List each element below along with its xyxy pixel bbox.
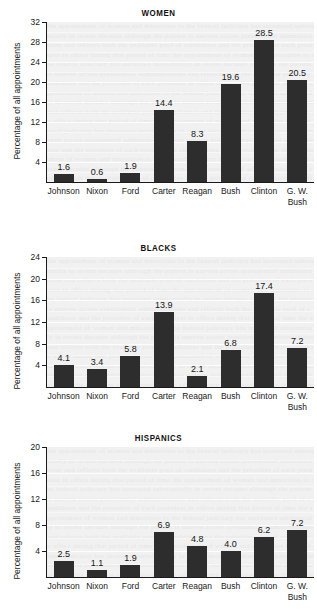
bar [154, 312, 174, 387]
gridline-minor [47, 268, 314, 269]
bar [54, 561, 74, 577]
bar-value-label: 19.6 [222, 72, 240, 82]
x-axis-category-label: G. W.Bush [287, 186, 308, 207]
y-axis-tick-label: 12 [18, 494, 40, 504]
bar [221, 350, 241, 387]
bar [254, 40, 274, 183]
y-axis-tick-label: 16 [18, 295, 40, 305]
chart-title: HISPANICS [19, 433, 298, 443]
y-axis-tick-label: 8 [18, 137, 40, 147]
x-axis-category-label: Nixon [86, 391, 108, 402]
gridline-minor [47, 460, 314, 461]
x-axis-category-label: Carter [152, 186, 176, 197]
x-axis-category-label: Reagan [182, 186, 212, 197]
y-axis-tick [42, 300, 46, 301]
y-axis-tick-label: 8 [18, 520, 40, 530]
y-axis-tick-label: 12 [18, 317, 40, 327]
bar [287, 348, 307, 387]
gridline-minor [47, 486, 314, 487]
y-axis-tick-label: 4 [18, 157, 40, 167]
x-axis-category-label: Reagan [182, 391, 212, 402]
chart-blacks: BLACKS Percentage of all appointments th… [0, 235, 317, 425]
bar-value-label: 0.6 [91, 167, 104, 177]
bar-value-label: 13.9 [155, 300, 173, 310]
y-axis-tick-label: 20 [18, 274, 40, 284]
bar-value-label: 2.5 [57, 549, 70, 559]
y-axis-tick [42, 279, 46, 280]
bar-value-label: 7.2 [291, 518, 304, 528]
y-axis-tick [42, 102, 46, 103]
gridline-minor [47, 512, 314, 513]
x-axis-category-label: Clinton [251, 391, 277, 402]
y-axis-line [46, 447, 47, 578]
bar-value-label: 1.6 [57, 162, 70, 172]
x-axis-category-label: Nixon [86, 581, 108, 592]
plot-area: the appointment of women and minorities … [47, 447, 314, 577]
x-axis-category-label: G. W.Bush [287, 391, 308, 412]
y-axis-line [46, 22, 47, 183]
bar [187, 376, 207, 387]
bar [87, 570, 107, 577]
y-axis-tick [42, 322, 46, 323]
x-axis-category-label: Carter [152, 391, 176, 402]
y-axis-tick [42, 42, 46, 43]
bar-value-label: 28.5 [255, 28, 273, 38]
bar [221, 551, 241, 577]
y-axis-tick-label: 12 [18, 117, 40, 127]
bar [87, 369, 107, 387]
bar-value-label: 4.0 [224, 539, 237, 549]
gridline [47, 525, 314, 526]
chart-title: BLACKS [19, 243, 298, 253]
bar-value-label: 4.1 [57, 353, 70, 363]
bar [254, 537, 274, 577]
x-axis-category-label: Johnson [48, 186, 80, 197]
bar [154, 110, 174, 182]
bar-value-label: 6.9 [158, 520, 171, 530]
bar-value-label: 6.8 [224, 338, 237, 348]
y-axis-tick [42, 142, 46, 143]
y-axis-line [46, 257, 47, 388]
x-axis-category-label: Bush [221, 391, 240, 402]
x-axis-category-label: G. W.Bush [287, 581, 308, 602]
y-axis-tick [42, 525, 46, 526]
y-axis-tick [42, 344, 46, 345]
y-axis-tick [42, 82, 46, 83]
bar-value-label: 5.8 [124, 344, 137, 354]
bar-value-label: 7.2 [291, 336, 304, 346]
bar [154, 532, 174, 577]
bar [287, 80, 307, 183]
x-axis-category-label: Nixon [86, 186, 108, 197]
y-axis-tick [42, 551, 46, 552]
y-axis-tick [42, 447, 46, 448]
bar-value-label: 1.9 [124, 161, 137, 171]
x-axis-category-label: Ford [122, 186, 139, 197]
plot-area: the appointment of women and minorities … [47, 22, 314, 182]
bar [187, 546, 207, 577]
y-axis-tick [42, 257, 46, 258]
y-axis-tick-label: 20 [18, 442, 40, 452]
x-axis-category-label: Reagan [182, 581, 212, 592]
bar-value-label: 20.5 [289, 68, 307, 78]
y-axis-tick [42, 473, 46, 474]
x-axis-line [46, 387, 314, 388]
y-axis-tick-label: 20 [18, 77, 40, 87]
y-axis-tick [42, 365, 46, 366]
bar-value-label: 14.4 [155, 98, 173, 108]
x-axis-category-label: Ford [122, 391, 139, 402]
x-axis-category-label: Johnson [48, 391, 80, 402]
bar-value-label: 2.1 [191, 364, 204, 374]
bar [54, 365, 74, 387]
bar-value-label: 1.9 [124, 553, 137, 563]
y-axis-tick-label: 24 [18, 252, 40, 262]
y-axis-tick [42, 122, 46, 123]
y-axis-tick-label: 4 [18, 546, 40, 556]
x-axis-category-label: Bush [221, 186, 240, 197]
bar [287, 530, 307, 577]
bar-value-label: 17.4 [255, 281, 273, 291]
bar [254, 293, 274, 387]
gridline-minor [47, 32, 314, 33]
chart-title: WOMEN [19, 8, 298, 18]
x-axis-category-label: Ford [122, 581, 139, 592]
bar [54, 174, 74, 182]
x-axis-category-label: Clinton [251, 581, 277, 592]
